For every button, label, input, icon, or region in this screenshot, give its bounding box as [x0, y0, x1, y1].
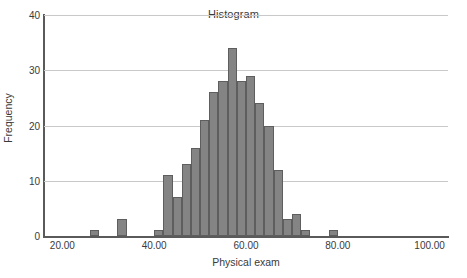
histogram-bar	[274, 170, 283, 236]
histogram-bar	[228, 48, 237, 236]
x-tick-label: 40.00	[142, 240, 167, 251]
gridline	[44, 70, 448, 71]
y-tick-label: 20	[6, 120, 40, 131]
gridline	[44, 15, 448, 16]
x-tick-label: 20.00	[50, 240, 75, 251]
histogram-bar	[117, 219, 126, 236]
histogram-bar	[182, 164, 191, 236]
histogram-bar	[154, 230, 163, 236]
histogram-bar	[301, 230, 310, 236]
histogram-bar	[173, 197, 182, 236]
histogram-bar	[237, 81, 246, 236]
y-axis-tick-labels: 010203040	[0, 0, 40, 278]
histogram-bar	[255, 103, 264, 236]
histogram-bar	[283, 219, 292, 236]
plot-area	[44, 15, 448, 236]
histogram-bar	[246, 76, 255, 236]
x-tick-label: 80.00	[325, 240, 350, 251]
histogram-bar	[329, 230, 338, 236]
histogram-bar	[292, 214, 301, 236]
histogram-bar	[191, 148, 200, 236]
x-axis-line	[43, 236, 449, 238]
histogram-bar	[264, 126, 273, 237]
histogram-chart: Histogram Frequency 010203040 20.0040.00…	[0, 0, 467, 278]
histogram-bar	[200, 120, 209, 236]
histogram-bar	[209, 92, 218, 236]
y-tick-label: 30	[6, 65, 40, 76]
y-tick-label: 0	[6, 231, 40, 242]
y-tick-label: 40	[6, 10, 40, 21]
histogram-bar	[90, 230, 99, 236]
x-tick-label: 60.00	[233, 240, 258, 251]
x-tick-label: 100.00	[414, 240, 445, 251]
y-tick-label: 10	[6, 175, 40, 186]
histogram-bar	[163, 175, 172, 236]
histogram-bar	[218, 81, 227, 236]
x-axis-label: Physical exam	[44, 256, 448, 268]
